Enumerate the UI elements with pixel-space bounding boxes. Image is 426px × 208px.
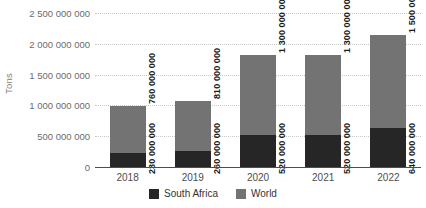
bar-stack: [370, 35, 406, 167]
bar-group[interactable]: [175, 13, 211, 167]
bar-value-label-world: 1 300 000 000: [277, 0, 287, 53]
legend-item[interactable]: World: [236, 188, 277, 199]
x-axis-tick-label: 2020: [247, 172, 269, 183]
bar-value-label-world: 1 500 000 000: [407, 0, 417, 33]
y-axis-tick-label: 0: [0, 162, 90, 173]
legend-swatch-icon: [236, 189, 246, 199]
x-axis-tick-label: 2019: [182, 172, 204, 183]
bar-value-label-world: 810 000 000: [212, 48, 222, 99]
bar-value-label-world: 1 300 000 000: [342, 0, 352, 53]
bar-segment-world[interactable]: [370, 35, 406, 127]
y-axis-tick-label: 2 000 000 000: [0, 38, 90, 49]
bar-segment-south-africa[interactable]: [370, 128, 406, 167]
x-axis-baseline: [95, 167, 421, 168]
bar-stack: [240, 55, 276, 167]
y-axis-tick-label: 1 500 000 000: [0, 69, 90, 80]
y-axis-tick-label: 2 500 000 000: [0, 8, 90, 19]
bar-segment-south-africa[interactable]: [240, 135, 276, 167]
bar-segment-south-africa[interactable]: [175, 151, 211, 167]
legend-label: South Africa: [164, 188, 218, 199]
bar-group[interactable]: [370, 13, 406, 167]
chart-legend: South AfricaWorld: [0, 188, 426, 199]
bar-segment-world[interactable]: [110, 106, 146, 153]
y-axis-tick-label: 500 000 000: [0, 131, 90, 142]
bar-group[interactable]: [110, 13, 146, 167]
stacked-bar-chart: Tons 0500 000 0001 000 000 0001 500 000 …: [0, 0, 426, 208]
bar-stack: [175, 101, 211, 167]
x-axis-tick-label: 2018: [116, 172, 138, 183]
x-axis-tick-label: 2021: [312, 172, 334, 183]
legend-swatch-icon: [149, 189, 159, 199]
bar-stack: [305, 55, 341, 167]
bar-group[interactable]: [305, 13, 341, 167]
legend-item[interactable]: South Africa: [149, 188, 218, 199]
bar-segment-world[interactable]: [240, 55, 276, 135]
bar-segment-world[interactable]: [305, 55, 341, 135]
bar-group[interactable]: [240, 13, 276, 167]
bar-segment-south-africa[interactable]: [110, 153, 146, 167]
y-axis-tick-label: 1 000 000 000: [0, 100, 90, 111]
x-axis-tick-label: 2022: [377, 172, 399, 183]
legend-label: World: [251, 188, 277, 199]
plot-area: 0500 000 0001 000 000 0001 500 000 0002 …: [95, 13, 421, 167]
bar-segment-south-africa[interactable]: [305, 135, 341, 167]
bar-stack: [110, 106, 146, 167]
bar-value-label-world: 760 000 000: [147, 53, 157, 104]
bar-segment-world[interactable]: [175, 101, 211, 151]
